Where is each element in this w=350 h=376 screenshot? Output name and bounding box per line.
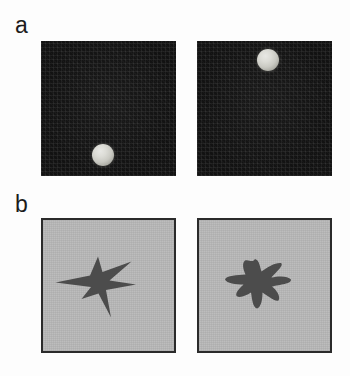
dark-panel-sphere-lower-left [41,41,176,176]
sphere-object-upper-middle [257,49,279,71]
gray-panel-rounded-blob [197,218,332,353]
sphere-object-lower-left [92,144,114,166]
figure-canvas: a b [0,0,350,376]
panel-label-a: a [15,14,28,37]
gray-panel-spiky-star [41,218,176,353]
dark-panel-sphere-upper-right [197,41,332,176]
spiky-star-silhouette [43,220,174,351]
rounded-blob-silhouette [199,220,330,351]
panel-label-b: b [15,193,28,216]
